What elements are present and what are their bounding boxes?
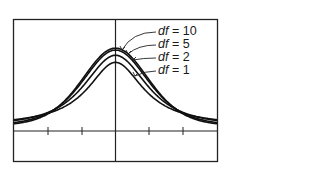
legend-label-df10: df = 10	[158, 25, 197, 38]
arrow-2	[133, 58, 156, 60]
arrow-1	[128, 45, 156, 54]
legend-label-df5: df = 5	[158, 38, 190, 51]
legend-label-df1: df = 1	[158, 64, 190, 77]
legend-label-df2: df = 2	[158, 51, 190, 64]
